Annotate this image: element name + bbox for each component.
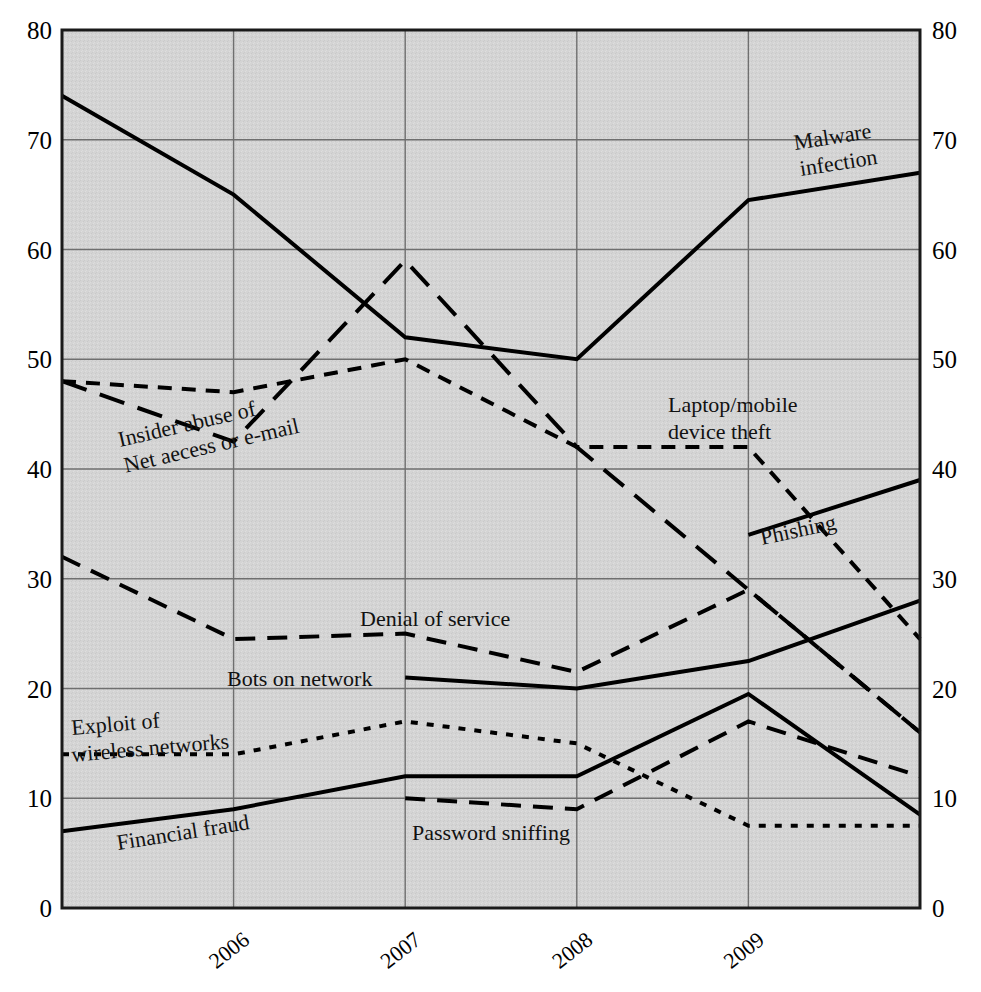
y-axis-right: 80706050403020100 xyxy=(932,17,957,922)
y-tick-label-left: 80 xyxy=(27,17,52,44)
chart-page: 80706050403020100 80706050403020100 2006… xyxy=(0,0,981,992)
y-tick-label-right: 0 xyxy=(932,895,945,922)
y-tick-label-right: 20 xyxy=(932,676,957,703)
y-tick-label-right: 30 xyxy=(932,566,957,593)
annotation-password-sniffing: Password sniffing xyxy=(412,820,570,845)
y-tick-label-left: 20 xyxy=(27,676,52,703)
y-tick-label-left: 0 xyxy=(40,895,53,922)
y-tick-label-right: 60 xyxy=(932,237,957,264)
y-tick-label-left: 70 xyxy=(27,127,52,154)
y-tick-label-left: 40 xyxy=(27,456,52,483)
y-axis-left: 80706050403020100 xyxy=(27,17,52,922)
y-tick-label-right: 40 xyxy=(932,456,957,483)
annotation-text-line2: device theft xyxy=(668,419,771,444)
y-tick-label-right: 80 xyxy=(932,17,957,44)
y-tick-label-right: 10 xyxy=(932,785,957,812)
annotation-text-line1: Laptop/mobile xyxy=(668,392,798,417)
annotation-bots-on-network: Bots on network xyxy=(227,666,372,691)
annotation-denial-of-service: Denial of service xyxy=(360,606,510,631)
y-tick-label-left: 50 xyxy=(27,346,52,373)
annotation-text-line1: Password sniffing xyxy=(412,820,570,845)
annotation-text-line1: Denial of service xyxy=(360,606,510,631)
y-tick-label-left: 30 xyxy=(27,566,52,593)
y-tick-label-right: 70 xyxy=(932,127,957,154)
line-chart: 80706050403020100 80706050403020100 2006… xyxy=(0,0,981,992)
y-tick-label-left: 60 xyxy=(27,237,52,264)
y-tick-label-left: 10 xyxy=(27,785,52,812)
y-tick-label-right: 50 xyxy=(932,346,957,373)
annotation-text-line1: Bots on network xyxy=(227,666,372,691)
